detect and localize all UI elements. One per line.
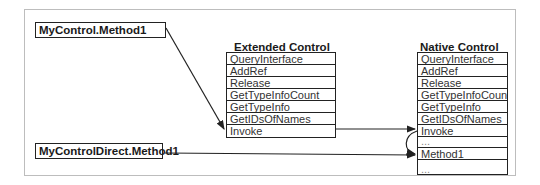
connector-arrows (0, 0, 540, 185)
